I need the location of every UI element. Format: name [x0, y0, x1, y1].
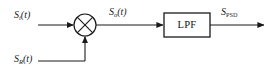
label-final-output: SPSD	[221, 7, 238, 17]
label-mixer-output-subscript: o	[114, 11, 117, 18]
block-diagram: Si(t) SR(t) So(t) SPSD LPF	[0, 0, 272, 78]
label-reference-signal-subscript: R	[19, 58, 23, 65]
label-input-signal-argument: (t)	[21, 9, 30, 20]
label-mixer-output: So(t)	[109, 7, 127, 17]
label-final-output-subscript: PSD	[226, 11, 238, 18]
label-input-signal: Si(t)	[14, 10, 30, 20]
label-input-signal-subscript: i	[19, 14, 21, 21]
filter-block-label: LPF	[167, 19, 207, 30]
label-reference-signal-argument: (t)	[23, 53, 32, 64]
label-reference-signal: SR(t)	[14, 54, 32, 64]
label-mixer-output-argument: (t)	[117, 6, 126, 17]
